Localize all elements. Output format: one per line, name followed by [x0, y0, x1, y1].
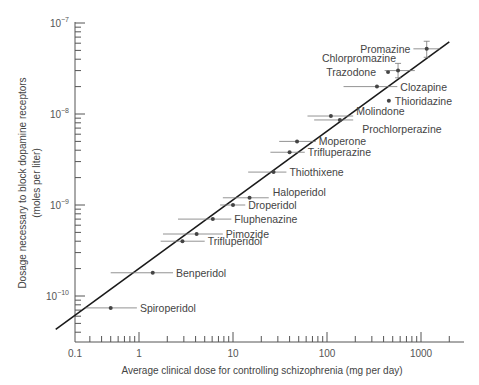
data-point-thiothixene: Thiothixene	[248, 166, 344, 178]
x-tick-label: 100	[319, 348, 336, 359]
data-point-trazodone: Trazodone	[326, 66, 390, 78]
data-points: SpiroperidolBenperidolTrifluperidolPimoz…	[86, 41, 453, 314]
data-point-haloperidol: Haloperidol	[223, 186, 326, 200]
data-point-marker	[211, 217, 215, 221]
data-point-fluphenazine: Fluphenazine	[178, 213, 298, 225]
data-point-marker	[338, 118, 342, 122]
data-point-label: Clozapine	[400, 81, 447, 93]
data-point-marker	[288, 150, 292, 154]
data-point-label: Trazodone	[326, 66, 376, 78]
data-point-label: Thiothixene	[289, 166, 343, 178]
y-tick-label: 10−10	[46, 289, 69, 302]
data-point-marker	[151, 271, 155, 275]
data-point-label: Prochlorperazine	[362, 123, 442, 135]
data-point-trifluperazine: Trifluperazine	[270, 146, 371, 158]
data-point-spiroperidol: Spiroperidol	[86, 302, 196, 314]
data-point-marker	[425, 47, 429, 51]
y-axis-units: (moles per liter)	[31, 148, 42, 217]
data-point-marker	[248, 196, 252, 200]
data-point-marker	[109, 306, 113, 310]
fit-line	[56, 42, 450, 329]
x-axis-title: Average clinical dose for controlling sc…	[121, 365, 402, 376]
data-point-label: Spiroperidol	[140, 302, 196, 314]
data-point-marker	[272, 170, 276, 174]
data-point-label: Benperidol	[176, 267, 226, 279]
data-point-marker	[180, 239, 184, 243]
data-point-label: Fluphenazine	[234, 213, 297, 225]
data-point-label: Trifluperazine	[308, 146, 371, 158]
regression-line	[56, 42, 450, 329]
data-point-label: Pimozide	[226, 228, 269, 240]
data-point-clozapine: Clozapine	[344, 81, 448, 93]
data-point-label: Molindone	[356, 105, 405, 117]
y-tick-label: 10−7	[50, 16, 69, 29]
data-point-marker	[231, 203, 235, 207]
data-point-label: Thioridazine	[395, 95, 452, 107]
data-point-marker	[295, 139, 299, 143]
data-point-label: Moperone	[319, 135, 366, 147]
x-tick-label: 10	[227, 348, 239, 359]
data-point-marker	[375, 85, 379, 89]
x-tick-label: 1000	[410, 348, 433, 359]
data-point-label: Droperidol	[248, 199, 296, 211]
data-point-marker	[329, 114, 333, 118]
data-point-thioridazine: Thioridazine	[387, 95, 452, 107]
y-axis-title: Dosage necessary to block dopamine recep…	[17, 77, 28, 288]
data-point-molindone: Molindone	[307, 105, 404, 118]
x-tick-label: 0.1	[68, 348, 82, 359]
y-tick-label: 10−9	[50, 198, 69, 211]
data-point-label: Promazine	[360, 43, 410, 55]
data-point-marker	[195, 232, 199, 236]
data-point-marker	[396, 69, 400, 73]
data-point-moperone: Moperone	[279, 135, 366, 147]
x-tick-label: 1	[136, 348, 142, 359]
dopamine-dose-scatter-chart: 0.1110100100010−710−810−910−10 Spiroperi…	[0, 0, 479, 385]
data-point-label: Haloperidol	[273, 186, 326, 198]
data-point-marker	[387, 99, 391, 103]
y-tick-label: 10−8	[50, 107, 69, 120]
